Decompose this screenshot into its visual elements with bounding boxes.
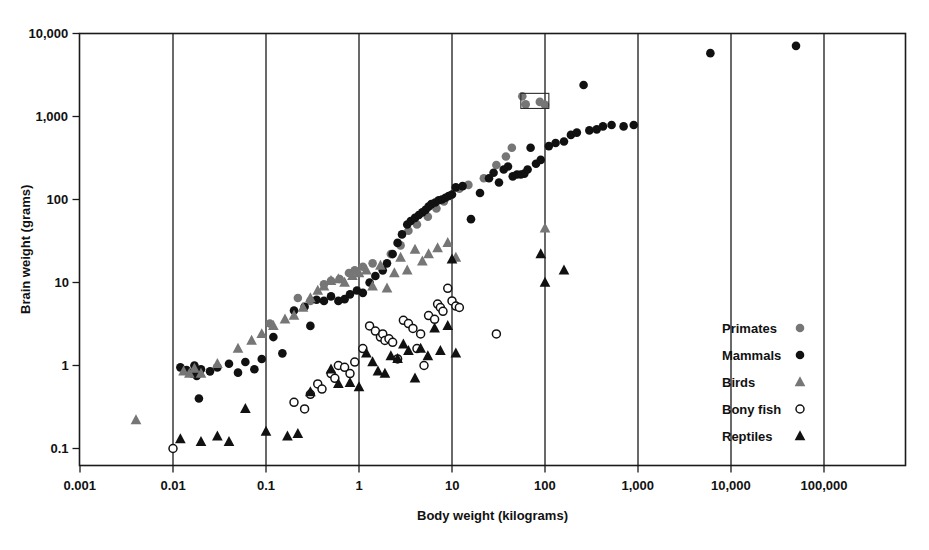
data-point [629,121,638,130]
x-tick-label: 1 [356,478,363,493]
data-point [389,267,400,277]
data-point [318,385,326,393]
data-point [508,143,517,152]
data-point [458,182,467,191]
data-point [225,359,234,368]
data-point [541,101,550,110]
y-tick-label: 10 [55,275,69,290]
data-point [455,303,463,311]
data-point [389,338,397,346]
data-point [429,323,440,333]
data-point [439,307,447,315]
data-point [536,156,545,165]
data-point [359,289,368,298]
data-point [540,222,551,232]
data-point [467,215,476,224]
data-point [409,324,417,332]
data-point [195,394,204,403]
data-point [521,100,530,109]
series-mammals [176,42,800,403]
x-tick-label: 1,000 [622,478,655,493]
legend-label-reptiles: Reptiles [722,429,773,444]
plot-frame [80,34,906,466]
data-point [175,433,186,443]
y-tick-label: 100 [47,192,69,207]
data-point [489,168,498,177]
data-point [246,335,257,345]
x-tick-label: 10,000 [711,478,751,493]
legend-marker-glyph [795,376,806,386]
data-point [196,436,207,446]
data-point [599,122,608,131]
data-point [233,343,244,353]
y-axis-ticks [73,34,80,449]
data-point [410,373,421,383]
legend-marker-glyph [796,405,804,413]
legend-marker-primates [796,324,805,333]
data-point [502,152,511,161]
y-tick-label: 0.1 [51,441,69,456]
data-point [224,436,235,446]
data-point [278,349,287,358]
data-point [280,314,291,324]
data-point [368,259,377,268]
data-point [388,250,397,259]
data-point [305,386,316,396]
legend-marker-mammals [796,351,805,360]
data-point [241,358,250,367]
legend-label-primates: Primates [722,321,777,336]
series-primates [266,92,550,328]
data-point [367,356,378,366]
x-tick-label: 0.001 [64,478,97,493]
x-tick-label: 10 [445,478,459,493]
data-point [402,265,413,275]
data-point [495,178,504,187]
data-point [523,165,532,174]
x-tick-label: 100 [534,478,556,493]
data-point [792,42,801,51]
data-point [294,294,303,303]
data-point [257,355,266,364]
y-axis-title: Brain weight (grams) [18,185,33,314]
data-point [579,81,588,90]
data-point [169,445,177,453]
data-point [234,368,243,377]
legend-label-birds: Birds [722,375,755,390]
data-point [560,137,569,146]
data-point [435,345,446,355]
y-tick-label: 10,000 [29,26,69,41]
legend-marker-bony-fish [796,405,804,413]
legend-marker-glyph [796,324,805,333]
data-point [327,292,336,301]
legend-label-bony-fish: Bony fish [722,402,781,417]
y-tick-label: 1 [62,358,69,373]
data-point [212,431,223,441]
data-point [573,128,582,137]
data-point [476,189,485,198]
data-point [290,398,298,406]
plot-canvas [0,0,929,550]
data-point [131,414,142,424]
data-point [354,381,365,391]
data-point [306,322,315,331]
data-point [551,139,560,148]
x-axis-title: Body weight (kilograms) [417,508,568,523]
data-point [212,358,223,368]
data-point [492,161,501,170]
data-point [559,265,570,275]
data-point [526,143,535,152]
data-point [351,358,359,366]
data-point [269,333,278,342]
data-point [607,121,616,130]
data-point [432,242,443,252]
legend-marker-birds [795,376,806,386]
x-tick-label: 0.01 [161,478,186,493]
data-point [261,426,272,436]
legend-marker-glyph [795,430,806,440]
x-tick-label: 100,000 [801,478,848,493]
data-point [386,350,397,360]
data-point [371,272,380,281]
data-point [206,367,215,376]
series-birds [131,222,551,424]
data-point [240,403,251,413]
